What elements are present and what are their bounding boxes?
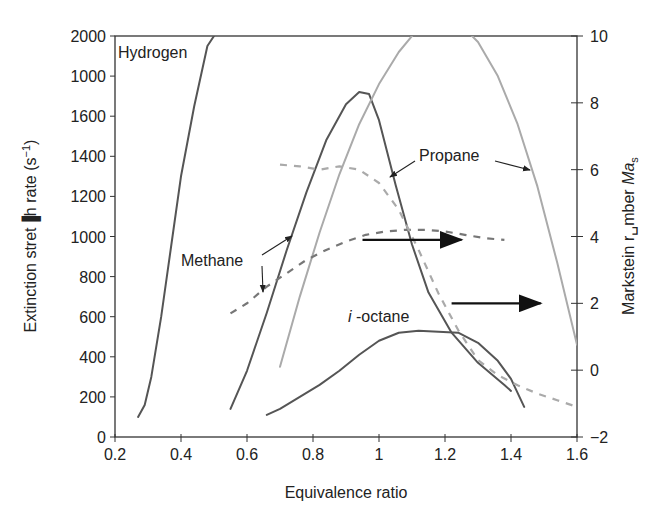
plot-frame: [115, 36, 577, 437]
x-tick-label: 1.4: [500, 446, 522, 463]
right-y-axis-label-main: Markstein r␣mber: [620, 185, 638, 315]
methane-label: Methane: [181, 252, 243, 269]
plot-border: [115, 36, 577, 437]
left-y-axis-label: Extinction stret▐h rate (s−1): [20, 140, 41, 333]
hydrogen-extinction-stretch-rate-line: [138, 36, 214, 417]
i-octane-extinction-stretch-rate-line: [267, 331, 524, 415]
right-y-tick-label: −2: [590, 429, 608, 446]
x-tick-label: 0.4: [170, 446, 192, 463]
left-y-tick-label: 2000: [70, 28, 106, 45]
x-tick-label: 1: [375, 446, 384, 463]
propane-extinction-stretch-rate-line: [280, 18, 577, 367]
propane-label: Propane: [419, 147, 480, 164]
left-y-axis-label-main: Extinction stret▐h rate (s: [21, 157, 41, 332]
left-y-axis-label-sup: −1: [20, 145, 32, 158]
left-y-tick-label: 1400: [70, 148, 106, 165]
x-tick-label: 0.8: [302, 446, 324, 463]
left-y-tick-label: 0: [97, 429, 106, 446]
right-y-axis-label-sub: s: [628, 157, 640, 163]
chart: 0.20.40.60.811.21.41.6 02004006008001000…: [0, 0, 659, 519]
left-y-axis-label-end: ): [22, 140, 39, 145]
left-y-tick-label: 600: [79, 309, 106, 326]
hydrogen-label: Hydrogen: [118, 44, 187, 61]
left-y-axis-ticks: 0200400600800100012001400160010002000: [70, 28, 115, 446]
left-y-tick-label: 1000: [70, 229, 106, 246]
x-axis-label: Equivalence ratio: [285, 484, 408, 501]
right-y-tick-label: 4: [590, 229, 599, 246]
methane-extinction-stretch-rate-line: [231, 92, 512, 409]
x-tick-label: 1.2: [434, 446, 456, 463]
ioctane-label-rest: -octane: [352, 308, 410, 325]
right-y-tick-label: 6: [590, 162, 599, 179]
right-y-axis-label: Markstein r␣mber Mas: [620, 157, 640, 315]
ioctane-label: i -octane: [348, 308, 409, 325]
left-y-tick-label: 200: [79, 389, 106, 406]
left-y-tick-label: 1600: [70, 108, 106, 125]
right-y-tick-label: 10: [590, 28, 608, 45]
left-y-tick-label: 1000: [70, 68, 106, 85]
x-tick-label: 0.2: [104, 446, 126, 463]
x-axis-ticks: 0.20.40.60.811.21.41.6: [104, 434, 588, 463]
methane-arrow-to-markstein: [262, 266, 263, 292]
left-y-tick-label: 1200: [70, 188, 106, 205]
left-y-tick-label: 400: [79, 349, 106, 366]
right-y-axis-label-ma: Ma: [620, 163, 637, 185]
left-y-tick-label: 800: [79, 269, 106, 286]
propane-markstein-number-line: [280, 165, 577, 407]
data-series: [138, 18, 577, 417]
propane-arrow-to-extinction: [495, 161, 530, 170]
right-y-tick-label: 8: [590, 95, 599, 112]
propane-arrow-to-markstein: [390, 161, 415, 177]
right-y-tick-label: 2: [590, 295, 599, 312]
x-tick-label: 0.6: [236, 446, 258, 463]
x-tick-label: 1.6: [566, 446, 588, 463]
right-y-tick-label: 0: [590, 362, 599, 379]
